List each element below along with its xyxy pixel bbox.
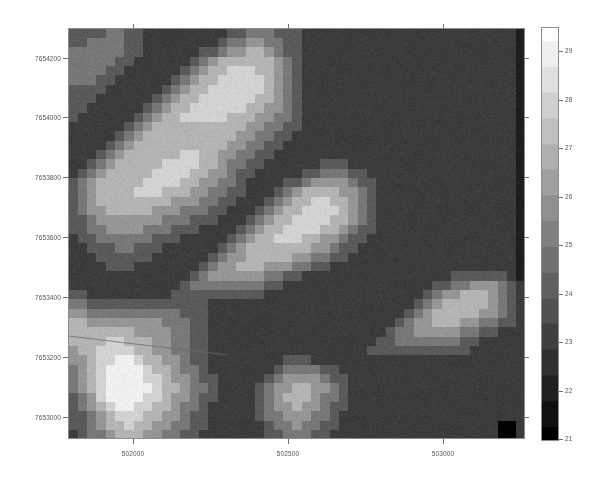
colorbar-tick-label: 21: [565, 435, 572, 442]
colorbar-tick-label: 29: [565, 47, 572, 54]
colorbar-tick-label: 26: [565, 193, 572, 200]
raster-image: [68, 28, 525, 439]
y-tick-mark-right: [525, 297, 529, 298]
x-tick-label: 502500: [263, 450, 313, 457]
y-tick-mark-right: [525, 58, 529, 59]
x-tick-mark-top: [443, 24, 444, 28]
x-tick-mark: [443, 439, 444, 444]
colorbar-tick-label: 23: [565, 338, 572, 345]
colorbar-tick-mark: [559, 148, 563, 149]
x-tick-mark: [288, 439, 289, 444]
colorbar-tick-mark: [559, 51, 563, 52]
x-tick-mark-top: [133, 24, 134, 28]
y-tick-mark: [63, 177, 68, 178]
colorbar-tick-mark: [559, 197, 563, 198]
y-tick-label: 7654000: [26, 114, 61, 121]
raster-map-axes[interactable]: [68, 28, 525, 439]
y-tick-mark: [63, 237, 68, 238]
colorbar-tick-mark: [559, 294, 563, 295]
y-tick-label: 7654200: [26, 55, 61, 62]
y-tick-label: 7653200: [26, 354, 61, 361]
colorbar-tick-mark: [559, 245, 563, 246]
colorbar-tick-label: 28: [565, 96, 572, 103]
colorbar-gradient: [542, 28, 558, 440]
y-tick-label: 7653600: [26, 234, 61, 241]
colorbar[interactable]: [541, 27, 559, 441]
y-tick-mark-right: [525, 357, 529, 358]
y-tick-mark: [63, 117, 68, 118]
y-tick-mark-right: [525, 417, 529, 418]
colorbar-tick-label: 24: [565, 290, 572, 297]
y-tick-label: 7653800: [26, 174, 61, 181]
y-tick-mark: [63, 58, 68, 59]
y-tick-label: 7653400: [26, 294, 61, 301]
colorbar-tick-mark: [559, 439, 563, 440]
x-tick-mark: [133, 439, 134, 444]
y-tick-mark: [63, 297, 68, 298]
y-tick-mark-right: [525, 237, 529, 238]
colorbar-tick-label: 25: [565, 241, 572, 248]
y-tick-mark-right: [525, 117, 529, 118]
x-tick-label: 502000: [108, 450, 158, 457]
colorbar-tick-mark: [559, 100, 563, 101]
y-tick-mark: [63, 417, 68, 418]
figure-canvas: 7654200 7654000 7653800 7653600 7653400 …: [0, 0, 591, 481]
colorbar-tick-label: 27: [565, 144, 572, 151]
y-tick-mark: [63, 357, 68, 358]
x-tick-mark-top: [288, 24, 289, 28]
y-tick-mark-right: [525, 177, 529, 178]
x-tick-label: 503000: [418, 450, 468, 457]
colorbar-tick-mark: [559, 391, 563, 392]
colorbar-tick-label: 22: [565, 387, 572, 394]
y-tick-label: 7653000: [26, 414, 61, 421]
colorbar-tick-mark: [559, 342, 563, 343]
